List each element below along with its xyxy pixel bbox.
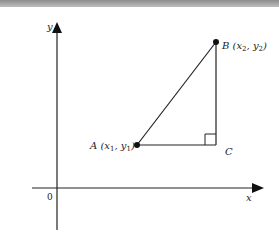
point-a-label: A (x1, y1) — [89, 140, 135, 153]
right-angle-marker — [205, 134, 216, 145]
point-b — [213, 39, 219, 45]
segment-ab — [137, 42, 216, 145]
point-b-label: B (x2, y2) — [221, 40, 267, 53]
coordinate-diagram: y x 0 B (x2, y2) A (x1, y1) C — [0, 0, 279, 238]
y-axis-label: y — [46, 21, 53, 32]
x-axis-arrow-icon — [252, 183, 264, 193]
x-axis-label: x — [246, 192, 252, 203]
origin-label: 0 — [47, 192, 53, 202]
point-a — [134, 142, 140, 148]
y-axis-arrow-icon — [52, 22, 62, 33]
point-c-label: C — [225, 146, 233, 157]
